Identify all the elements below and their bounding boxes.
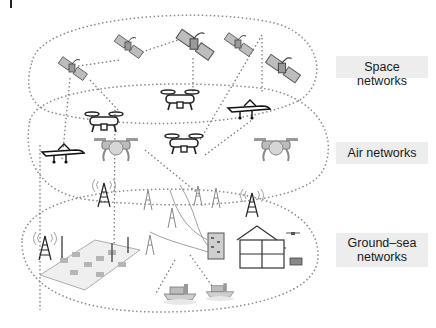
air-networks-label: Air networks	[336, 142, 428, 164]
cell-tower-icon	[34, 232, 57, 260]
ground-sea-label-line2: networks	[342, 250, 422, 264]
satellite-icon	[114, 35, 143, 59]
ground-sea-label-line1: Ground–sea	[342, 236, 422, 250]
quadcopter-drone-icon	[85, 112, 123, 132]
network-diagram	[0, 0, 436, 328]
quadcopter-drone-icon	[161, 90, 199, 110]
smart-home-icon	[237, 226, 286, 268]
satellite-icon	[265, 54, 300, 83]
large-quadcopter-drone-icon	[94, 138, 138, 161]
data-cables	[150, 185, 208, 252]
space-networks-label: Space networks	[336, 56, 428, 78]
cell-tower-icon	[241, 189, 264, 217]
ship-icon	[164, 284, 196, 305]
satellite-icon	[176, 29, 214, 60]
fixed-wing-uav-icon	[228, 100, 270, 120]
car-icon	[290, 258, 302, 265]
mini-drone-icon	[286, 232, 300, 235]
quadcopter-drone-icon	[165, 134, 203, 154]
satellite-icon	[224, 33, 253, 57]
ship-icon	[206, 283, 233, 301]
large-quadcopter-drone-icon	[254, 138, 298, 161]
satellite-icon	[58, 57, 87, 81]
ground-sea-networks-label: Ground–sea networks	[336, 233, 428, 267]
data-center-icon	[208, 233, 224, 259]
